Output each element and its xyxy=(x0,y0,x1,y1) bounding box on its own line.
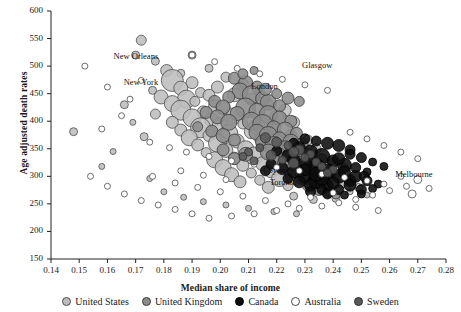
data-point xyxy=(140,133,148,141)
data-point xyxy=(375,208,381,214)
legend-label: United Kingdom xyxy=(155,296,223,307)
data-point xyxy=(274,208,280,214)
data-point xyxy=(289,147,299,157)
point-annotation: London xyxy=(251,81,277,91)
data-points-layer xyxy=(70,35,433,221)
dark-gray-circle-marker xyxy=(354,297,363,306)
data-point xyxy=(327,177,339,189)
legend-item-sweden[interactable]: Sweden xyxy=(354,296,399,307)
data-point xyxy=(205,64,213,72)
data-point xyxy=(408,190,416,198)
data-point xyxy=(251,211,257,217)
data-point xyxy=(381,181,387,187)
data-point xyxy=(183,149,189,155)
data-point xyxy=(181,194,187,200)
light-gray-circle-marker xyxy=(62,297,71,306)
data-point xyxy=(302,82,308,88)
data-point xyxy=(130,119,136,125)
data-point xyxy=(229,158,235,164)
legend-item-united-states[interactable]: United States xyxy=(62,296,129,307)
data-point xyxy=(308,194,314,200)
data-point xyxy=(294,96,304,106)
data-point xyxy=(138,198,144,204)
data-point xyxy=(345,149,355,159)
black-circle-marker xyxy=(235,297,244,306)
data-point xyxy=(319,203,325,209)
data-point xyxy=(256,144,264,152)
data-point xyxy=(192,139,204,151)
mid-gray-circle-marker xyxy=(142,297,151,306)
data-point xyxy=(121,191,127,197)
data-point xyxy=(333,153,345,165)
hollow-circle-marker xyxy=(291,297,300,306)
data-point xyxy=(221,114,237,130)
data-point xyxy=(240,193,246,199)
data-point xyxy=(398,149,404,155)
data-point xyxy=(364,178,370,184)
data-point xyxy=(110,149,116,155)
data-point xyxy=(212,59,218,65)
y-tick-label: 250 xyxy=(13,198,43,208)
data-point xyxy=(282,92,294,104)
y-axis-title: Age adjusted death rates xyxy=(19,53,29,193)
data-point xyxy=(347,129,353,135)
data-point xyxy=(333,139,345,151)
data-point xyxy=(99,126,105,132)
point-annotation: Sydney xyxy=(0,165,294,175)
data-point xyxy=(370,192,376,198)
data-point xyxy=(369,158,377,166)
data-point xyxy=(278,156,286,164)
data-point xyxy=(223,202,229,208)
data-point xyxy=(311,136,321,146)
data-point xyxy=(206,153,212,159)
data-point xyxy=(190,96,200,106)
data-point xyxy=(120,101,128,109)
data-point xyxy=(229,213,235,219)
data-point xyxy=(340,191,348,199)
scatter-plot-figure: 150200250300350400450500550600 0.140.150… xyxy=(0,0,461,312)
legend-label: Canada xyxy=(248,296,278,307)
x-axis-title: Median share of income xyxy=(0,283,461,293)
data-point xyxy=(322,137,334,149)
data-point xyxy=(147,139,153,145)
data-point xyxy=(296,168,302,174)
data-point xyxy=(262,198,268,204)
legend-item-canada[interactable]: Canada xyxy=(235,296,278,307)
point-annotation: Glasgow xyxy=(302,60,332,70)
data-point xyxy=(300,134,310,144)
data-point xyxy=(206,215,212,221)
data-point xyxy=(211,81,223,93)
data-point xyxy=(150,109,160,119)
data-point xyxy=(353,196,359,202)
data-point xyxy=(217,144,229,156)
data-point xyxy=(357,190,365,198)
data-point xyxy=(217,189,223,195)
data-point xyxy=(387,188,393,194)
chart-legend: United StatesUnited KingdomCanadaAustral… xyxy=(0,296,461,307)
legend-item-australia[interactable]: Australia xyxy=(291,296,341,307)
data-point xyxy=(353,204,359,210)
data-point xyxy=(330,190,336,196)
data-point xyxy=(290,192,298,200)
data-point xyxy=(119,113,125,119)
point-annotation: Toronto xyxy=(0,177,296,187)
data-point xyxy=(351,163,361,173)
data-point xyxy=(381,142,387,148)
data-point xyxy=(200,199,206,205)
legend-item-united-kingdom[interactable]: United Kingdom xyxy=(142,296,223,307)
legend-label: Australia xyxy=(304,296,341,307)
data-point xyxy=(189,52,195,58)
data-point xyxy=(239,152,247,160)
data-point xyxy=(364,136,370,142)
data-point xyxy=(369,184,377,192)
data-point xyxy=(155,202,161,208)
data-point xyxy=(70,128,78,136)
y-tick-label: 200 xyxy=(13,225,43,235)
data-point xyxy=(356,153,366,163)
data-point xyxy=(246,205,252,211)
data-point xyxy=(336,200,342,206)
data-point xyxy=(279,76,285,82)
data-point xyxy=(324,169,332,177)
data-point xyxy=(380,162,388,170)
data-point xyxy=(325,87,331,93)
